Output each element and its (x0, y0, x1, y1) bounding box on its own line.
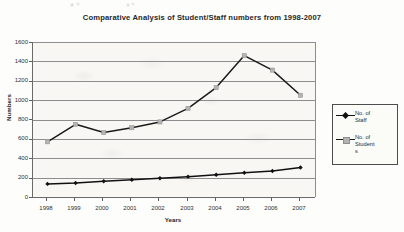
x-tick-label-2001: 2001 (117, 205, 143, 211)
line-chart: Comparative Analysis of Student/Staff nu… (0, 0, 404, 232)
data-point-students (158, 120, 162, 124)
series-line-students (48, 56, 301, 142)
legend-item-staff[interactable]: No. of Staff (336, 110, 396, 124)
data-point-students (270, 68, 274, 72)
legend-item-students[interactable]: No. of Student s (336, 134, 396, 156)
legend-swatch-staff (336, 111, 355, 119)
series-plot (33, 42, 315, 197)
data-point-students (186, 106, 190, 110)
x-tick-label-1999: 1999 (61, 205, 87, 211)
series-line-staff (48, 167, 301, 183)
chart-title: Comparative Analysis of Student/Staff nu… (0, 13, 404, 22)
y-tick-label-400: 400 (2, 155, 28, 161)
x-axis-title: Years (32, 216, 314, 223)
plot-area (32, 42, 315, 198)
data-point-staff (186, 174, 190, 178)
data-point-staff (45, 182, 49, 186)
y-tick-label-600: 600 (2, 135, 28, 141)
data-point-students (298, 93, 302, 97)
x-tick-label-2006: 2006 (258, 205, 284, 211)
series-markers-students (45, 53, 302, 143)
data-point-staff (214, 173, 218, 177)
x-tick-label-2005: 2005 (230, 205, 256, 211)
data-point-students (74, 122, 78, 126)
x-tick-label-2002: 2002 (145, 205, 171, 211)
y-tick-label-1400: 1400 (2, 58, 28, 64)
y-tick-label-200: 200 (2, 174, 28, 180)
y-tick-label-1600: 1600 (2, 39, 28, 45)
data-point-students (130, 126, 134, 130)
x-tick-label-2000: 2000 (89, 205, 115, 211)
data-point-staff (102, 179, 106, 183)
data-point-staff (130, 178, 134, 182)
data-point-students (214, 85, 218, 89)
data-point-staff (158, 176, 162, 180)
data-point-staff (298, 165, 302, 169)
x-tick-label-1998: 1998 (33, 205, 59, 211)
square-marker-icon (343, 137, 350, 144)
y-axis-title: Numbers (5, 83, 12, 133)
y-tick-label-0: 0 (2, 194, 28, 200)
data-point-students (102, 130, 106, 134)
legend-label-students: No. of Student s (355, 134, 375, 156)
plot-right-border (315, 42, 316, 197)
x-tick-label-2003: 2003 (174, 205, 200, 211)
chart-legend: No. of Staff No. of Student s (332, 104, 398, 165)
data-point-staff (73, 181, 77, 185)
x-tick-label-2004: 2004 (202, 205, 228, 211)
x-tick-label-2007: 2007 (286, 205, 312, 211)
diamond-marker-icon (342, 111, 349, 118)
data-point-students (242, 53, 246, 57)
legend-swatch-students (336, 135, 355, 143)
data-point-staff (242, 171, 246, 175)
data-point-students (45, 140, 49, 144)
legend-label-staff: No. of Staff (355, 110, 370, 124)
data-point-staff (270, 169, 274, 173)
